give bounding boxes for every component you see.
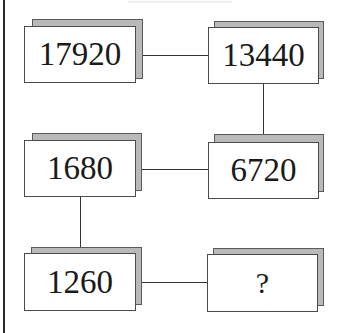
number-box-middle-right: 6720 bbox=[208, 142, 319, 199]
number-box-bottom-left: 1260 bbox=[24, 253, 136, 311]
number-box-top-left: 17920 bbox=[24, 26, 136, 83]
connector-bottom-left-to-bottom-right bbox=[142, 282, 207, 283]
box-value: 13440 bbox=[222, 37, 305, 74]
connector-middle-right-to-middle-left bbox=[142, 169, 208, 170]
box-value: 6720 bbox=[231, 152, 297, 189]
connector-top-right-to-middle-right bbox=[263, 83, 264, 134]
number-box-middle-left: 1680 bbox=[24, 140, 136, 197]
box-value: 1260 bbox=[47, 264, 113, 301]
clipped-header-text bbox=[128, 0, 232, 3]
connector-middle-left-to-bottom-left bbox=[80, 197, 81, 247]
box-value: 1680 bbox=[47, 150, 113, 187]
left-border bbox=[3, 0, 5, 333]
number-box-top-right: 13440 bbox=[208, 27, 319, 84]
question-mark: ? bbox=[256, 266, 269, 300]
box-value: 17920 bbox=[39, 36, 122, 73]
number-box-bottom-right-unknown: ? bbox=[207, 254, 318, 312]
connector-top-left-to-top-right bbox=[143, 55, 208, 56]
